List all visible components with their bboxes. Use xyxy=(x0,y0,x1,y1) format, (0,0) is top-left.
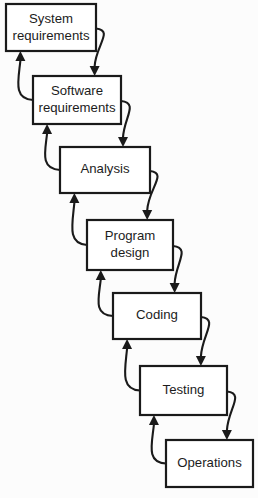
forward-arrow-curve xyxy=(121,101,130,138)
feedback-arrow-curve xyxy=(152,425,166,464)
stage-box-operations: Operations xyxy=(166,440,253,487)
forward-arrowhead xyxy=(118,137,128,147)
stage-box-testing: Testing xyxy=(140,366,227,415)
stage-box-software-requirements: Softwarerequirements xyxy=(33,76,121,124)
stage-label-line1: Operations xyxy=(177,455,242,470)
feedback-arrowhead xyxy=(96,270,106,280)
feedback-arrow-curve xyxy=(98,280,113,317)
feedback-arrow-software-requirements-to-system-requirements xyxy=(15,51,33,100)
stage-box-program-design: Programdesign xyxy=(87,220,173,270)
stage-label-line1: Coding xyxy=(136,307,178,322)
feedback-arrow-curve xyxy=(18,61,33,101)
waterfall-diagram-canvas: SystemrequirementsSoftwarerequirementsAn… xyxy=(0,0,258,498)
stage-label-line2: requirements xyxy=(13,28,90,43)
stage-label-line1: System xyxy=(29,11,73,26)
feedback-arrowhead xyxy=(15,51,25,61)
feedback-arrowhead xyxy=(69,193,79,203)
waterfall-diagram: SystemrequirementsSoftwarerequirementsAn… xyxy=(0,0,258,498)
feedback-arrow-curve xyxy=(45,134,60,171)
feedback-arrow-analysis-to-software-requirements xyxy=(42,124,60,170)
stage-label-line2: requirements xyxy=(39,100,116,115)
forward-arrowhead xyxy=(222,430,232,440)
feedback-arrowhead xyxy=(122,339,132,349)
stage-label-line1: Software xyxy=(51,83,103,98)
feedback-arrow-curve xyxy=(125,349,140,391)
forward-arrow-curve xyxy=(227,391,235,430)
feedback-arrow-operations-to-testing xyxy=(149,415,166,464)
forward-arrowhead xyxy=(142,210,152,220)
stage-box-system-requirements: Systemrequirements xyxy=(6,4,96,51)
forward-arrowhead xyxy=(170,283,180,293)
feedback-arrowhead xyxy=(149,415,159,425)
stage-label-line1: Program xyxy=(105,228,156,243)
forward-arrow-curve xyxy=(173,246,182,284)
feedback-arrow-coding-to-program-design xyxy=(96,270,113,316)
forward-arrowhead xyxy=(196,356,206,366)
forward-arrow-curve xyxy=(201,317,209,357)
stage-box-layer: SystemrequirementsSoftwarerequirementsAn… xyxy=(6,4,253,487)
stage-label-line2: design xyxy=(111,245,150,260)
stage-label-line1: Analysis xyxy=(80,161,130,176)
stage-box-analysis: Analysis xyxy=(60,147,150,193)
feedback-arrow-testing-to-coding xyxy=(122,339,140,391)
stage-box-coding: Coding xyxy=(113,293,201,339)
feedback-arrow-program-design-to-analysis xyxy=(69,193,87,245)
feedback-arrow-curve xyxy=(72,203,87,246)
feedback-arrowhead xyxy=(42,124,52,134)
forward-arrowhead xyxy=(90,66,100,76)
stage-label-line1: Testing xyxy=(163,382,205,397)
